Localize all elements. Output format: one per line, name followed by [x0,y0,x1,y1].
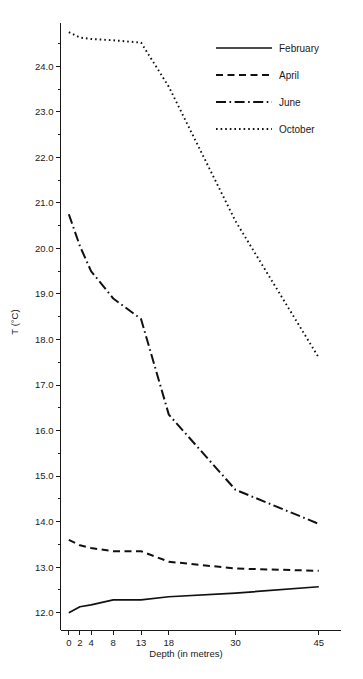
x-tick-label: 2 [77,637,82,648]
series-line-february [69,587,319,613]
y-tick-label: 20.0 [35,243,54,254]
x-tick-label: 4 [88,637,93,648]
y-axis-title: T (°C) [9,309,20,334]
line-chart: 12.013.014.015.016.017.018.019.020.021.0… [0,0,363,679]
y-tick-label: 21.0 [35,197,54,208]
y-tick-label: 13.0 [35,562,54,573]
chart-figure: 12.013.014.015.016.017.018.019.020.021.0… [0,0,363,679]
legend-label-june: June [279,97,301,108]
y-tick-label: 22.0 [35,152,54,163]
x-tick-label: 18 [164,637,175,648]
y-tick-label: 12.0 [35,607,54,618]
x-tick-label: 13 [136,637,147,648]
x-tick-label: 8 [111,637,116,648]
series-line-april [69,540,319,571]
y-tick-label: 19.0 [35,288,54,299]
series-line-october [69,32,319,358]
x-tick-label: 30 [230,637,241,648]
y-tick-label: 18.0 [35,334,54,345]
y-axis: 12.013.014.015.016.017.018.019.020.021.0… [35,23,61,630]
series-line-june [69,214,319,524]
x-axis-title: Depth (in metres) [149,648,222,659]
y-tick-label: 14.0 [35,516,54,527]
legend-label-february: February [279,43,319,54]
legend-label-october: October [279,124,315,135]
y-tick-label: 23.0 [35,106,54,117]
x-tick-label: 45 [313,637,324,648]
x-axis: 024813183045 [61,630,342,648]
legend-label-april: April [279,70,299,81]
chart-legend: FebruaryAprilJuneOctober [216,43,319,135]
y-tick-label: 15.0 [35,470,54,481]
y-tick-label: 16.0 [35,425,54,436]
data-series-group [69,32,319,613]
y-tick-label: 24.0 [35,61,54,72]
x-tick-label: 0 [66,637,71,648]
y-tick-label: 17.0 [35,379,54,390]
